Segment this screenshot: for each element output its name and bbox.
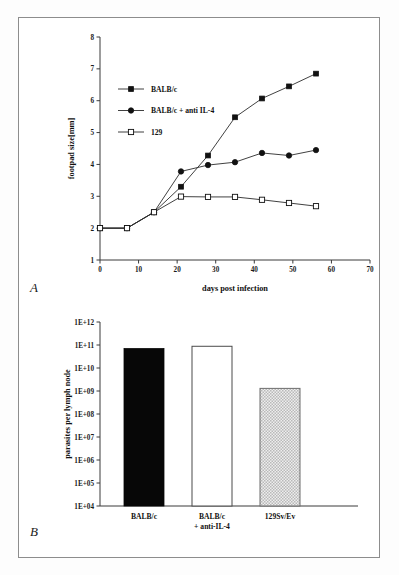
panel-b-ytick: 1E+07 [74, 434, 94, 442]
data-point-marker [259, 197, 264, 202]
data-point-marker [259, 150, 264, 155]
panel-b-label: B [30, 524, 38, 540]
data-point-marker [314, 71, 319, 76]
series-0 [98, 71, 319, 230]
panel-b-ytick: 1E+04 [74, 503, 94, 511]
panel-b-ytick: 1E+12 [74, 319, 94, 327]
data-point-marker [124, 226, 129, 231]
series-1 [97, 147, 318, 230]
panel-b-category-label-0: BALB/c [131, 512, 158, 521]
panel-b-ytick: 1E+11 [75, 342, 95, 350]
panel-a-legend: BALB/cBALB/c + anti IL-4129 [118, 85, 214, 137]
data-point-marker [286, 153, 291, 158]
panel-b-svg: 1E+041E+051E+061E+071E+081E+091E+101E+11… [18, 300, 380, 558]
data-point-marker [151, 210, 156, 215]
panel-a-xtick: 40 [251, 266, 259, 274]
series-2 [97, 194, 318, 231]
panel-a-xtick: 10 [135, 266, 143, 274]
panel-a-ytick: 7 [90, 65, 94, 73]
data-point-marker [287, 84, 292, 89]
data-point-marker [205, 194, 210, 199]
data-point-marker [313, 204, 318, 209]
panel-a-label: A [30, 280, 38, 296]
data-point-marker [286, 200, 291, 205]
panel-a-xtick: 60 [328, 266, 336, 274]
panel-b-ytick: 1E+06 [74, 457, 94, 465]
data-point-marker [128, 129, 133, 134]
panel-b-category-label-1: + anti-IL-4 [194, 522, 230, 531]
data-point-marker [260, 96, 265, 101]
bar-1 [192, 346, 232, 506]
data-point-marker [128, 108, 133, 113]
legend-label-1: BALB/c + anti IL-4 [151, 106, 214, 115]
data-point-marker [205, 162, 210, 167]
panel-a-svg: 12345678010203040506070footpad size[mm]d… [18, 17, 380, 300]
panel-a-ytick: 5 [90, 129, 94, 137]
panel-a-xtick: 20 [174, 266, 182, 274]
panel-b-ytick: 1E+10 [74, 365, 94, 373]
data-point-marker [179, 184, 184, 189]
bar-0 [124, 349, 164, 506]
legend-label-2: 129 [151, 128, 163, 137]
panel-b-ytick: 1E+09 [74, 388, 94, 396]
figure-root: A 12345678010203040506070footpad size[mm… [0, 0, 399, 575]
data-point-marker [313, 147, 318, 152]
panel-b-bar-chart: B 1E+041E+051E+061E+071E+081E+091E+101E+… [18, 300, 380, 558]
data-point-marker [206, 153, 211, 158]
panel-a-xtick: 70 [366, 266, 374, 274]
panel-b-ytick: 1E+08 [74, 411, 94, 419]
panel-a-xtick: 0 [98, 266, 102, 274]
bar-2 [260, 388, 300, 506]
panel-a-xtick: 30 [212, 266, 220, 274]
panel-a-ytick: 8 [90, 34, 94, 42]
panel-b-ytick: 1E+05 [74, 480, 94, 488]
data-point-marker [232, 194, 237, 199]
data-point-marker [233, 115, 238, 120]
panel-a-y-axis-title: footpad size[mm] [67, 118, 76, 180]
panel-a-x-axis-title: days post infection [202, 284, 268, 293]
panel-a-xtick: 50 [289, 266, 297, 274]
panel-a-ytick: 3 [90, 193, 94, 201]
panel-a-ytick: 6 [90, 97, 94, 105]
data-point-marker [178, 169, 183, 174]
panel-b-y-axis-title: parasites per lymph node [63, 369, 72, 459]
panel-a-ytick: 4 [90, 161, 94, 169]
legend-label-0: BALB/c [151, 85, 178, 94]
panel-a-ytick: 2 [90, 225, 94, 233]
data-point-marker [178, 194, 183, 199]
panel-b-category-label-2: 129Sv/Ev [265, 512, 296, 521]
panel-a-ytick: 1 [90, 257, 94, 265]
panel-b-category-label-1: BALB/c [199, 512, 226, 521]
panel-a-line-chart: A 12345678010203040506070footpad size[mm… [18, 17, 380, 300]
data-point-marker [97, 226, 102, 231]
data-point-marker [232, 159, 237, 164]
data-point-marker [129, 87, 134, 92]
